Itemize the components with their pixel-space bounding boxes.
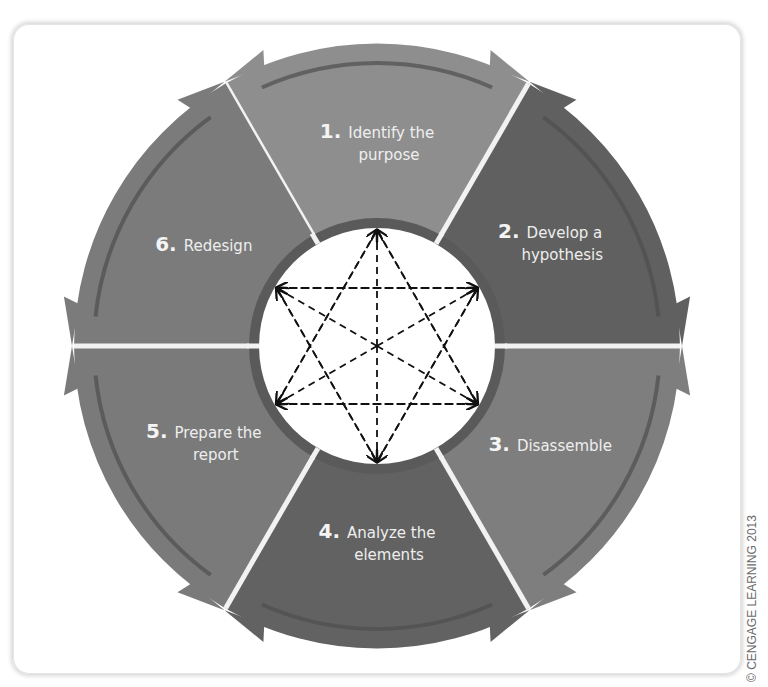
step-text-line-1: Disassemble bbox=[517, 437, 612, 455]
cycle-diagram: 1. Identify thepurpose2. Develop ahypoth… bbox=[0, 0, 768, 687]
step-text-line-1: Analyze the bbox=[347, 524, 436, 542]
step-number: 3. bbox=[488, 432, 516, 456]
step-number: 4. bbox=[319, 519, 347, 543]
step-number: 5. bbox=[146, 419, 174, 443]
step-number: 2. bbox=[498, 219, 526, 243]
step-number: 6. bbox=[155, 232, 183, 256]
step-text-line-1: Develop a bbox=[527, 224, 603, 242]
center-circle bbox=[247, 218, 507, 474]
step-text-line-1: Prepare the bbox=[175, 424, 262, 442]
step-text-line-1: Identify the bbox=[348, 124, 434, 142]
step-number: 1. bbox=[320, 119, 348, 143]
step-text-line-2: elements bbox=[354, 546, 424, 564]
step-text-line-2: report bbox=[193, 446, 239, 464]
step-text-line-2: purpose bbox=[359, 146, 420, 164]
step-text-line-2: hypothesis bbox=[521, 246, 603, 264]
copyright-credit: © CENGAGE LEARNING 2013 bbox=[745, 432, 759, 687]
step-text-line-1: Redesign bbox=[184, 237, 253, 255]
